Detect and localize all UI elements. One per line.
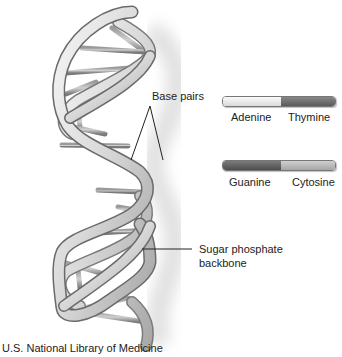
helix-shadow xyxy=(150,30,178,345)
double-helix-illustration xyxy=(0,0,342,357)
guanine-cytosine-bar xyxy=(222,160,336,171)
thymine-segment xyxy=(281,97,335,106)
dna-diagram: Base pairs Sugar phosphate backbone Aden… xyxy=(0,0,342,357)
adenine-thymine-bar xyxy=(222,96,336,107)
adenine-segment xyxy=(223,97,281,106)
adenine-label: Adenine xyxy=(231,111,271,124)
guanine-label: Guanine xyxy=(229,176,271,189)
thymine-label: Thymine xyxy=(288,111,330,124)
guanine-segment xyxy=(223,161,281,170)
base-pairs-label: Base pairs xyxy=(152,90,204,103)
cytosine-segment xyxy=(281,161,335,170)
sugar-phosphate-label-line2: backbone xyxy=(199,257,247,270)
cytosine-label: Cytosine xyxy=(292,176,335,189)
credit-text: U.S. National Library of Medicine xyxy=(2,342,163,354)
sugar-phosphate-label-line1: Sugar phosphate xyxy=(199,243,283,256)
